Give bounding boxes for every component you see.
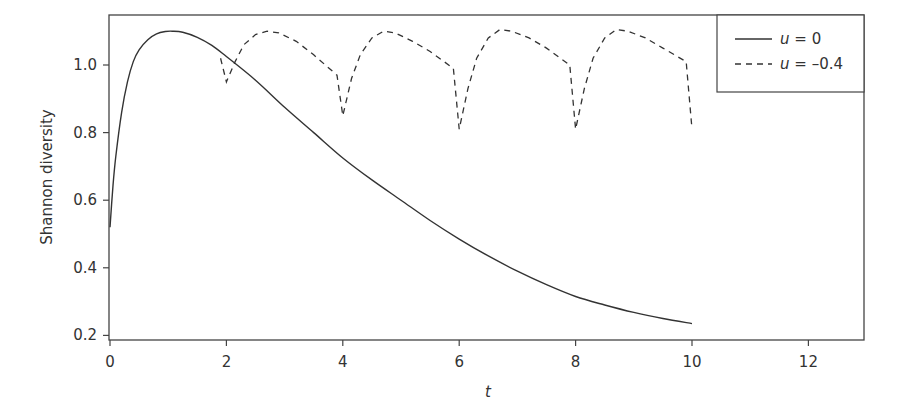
series-line-u-neg-0.4 (221, 30, 692, 130)
x-tick-label: 6 (454, 353, 464, 371)
y-tick-label: 0.2 (73, 326, 97, 344)
y-tick-label: 0.6 (73, 191, 97, 209)
legend: u = 0 u = –0.4 (717, 15, 864, 92)
legend-box (717, 15, 864, 92)
y-axis-ticks: 0.20.40.60.81.0 (73, 56, 109, 344)
x-tick-label: 8 (571, 353, 581, 371)
x-axis-ticks: 024681012 (105, 340, 818, 371)
x-tick-label: 0 (105, 353, 115, 371)
y-tick-label: 1.0 (73, 56, 97, 74)
y-axis-label: Shannon diversity (38, 109, 56, 245)
x-tick-label: 4 (338, 353, 348, 371)
y-tick-label: 0.8 (73, 124, 97, 142)
x-tick-label: 12 (799, 353, 818, 371)
x-tick-label: 10 (682, 353, 701, 371)
series-line-u-0 (110, 31, 692, 323)
legend-label-u-0: u = 0 (780, 30, 821, 48)
legend-label-u-neg-0.4: u = –0.4 (780, 55, 843, 73)
y-tick-label: 0.4 (73, 259, 97, 277)
x-tick-label: 2 (222, 353, 232, 371)
x-axis-label: t (485, 383, 492, 401)
line-chart: 0.20.40.60.81.0 024681012 Shannon divers… (0, 0, 897, 409)
